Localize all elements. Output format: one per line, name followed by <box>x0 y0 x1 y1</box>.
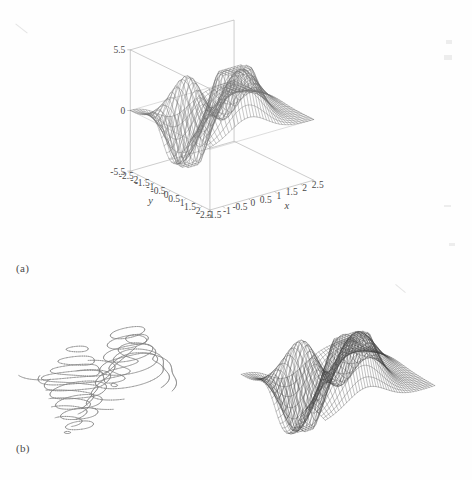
margin-speck <box>444 205 451 207</box>
x-tick-label-6: 1.5 <box>286 187 298 197</box>
panel-label-a: (a) <box>16 262 29 274</box>
figure-b-mesh <box>228 325 448 440</box>
x-tick-label-0: -1.5 <box>206 210 221 220</box>
panel-label-b: (b) <box>16 442 30 454</box>
y-axis-label: y <box>147 195 153 206</box>
x-tick-label-5: 1 <box>276 191 281 201</box>
z-tick-label-0: 5.5 <box>113 45 125 55</box>
x-tick-label-2: -0.5 <box>232 202 247 212</box>
x-tick-label-7: 2 <box>302 183 307 193</box>
margin-speck <box>444 55 452 60</box>
x-tick-label-3: 0 <box>250 198 255 208</box>
dense-mesh-plot-svg <box>228 325 448 440</box>
x-tick-label-1: -1 <box>223 206 231 216</box>
scanned-page: 5.50-5.5-2.5-2-1.5-1-0.500.511.522.5-1.5… <box>0 0 472 480</box>
z-tick-label-1: 0 <box>121 106 126 116</box>
x-tick-label-8: 2.5 <box>312 180 324 190</box>
x-axis-label: x <box>284 200 290 211</box>
figure-b-contour <box>12 325 217 440</box>
margin-speck <box>446 40 452 44</box>
margin-speck <box>449 243 455 246</box>
figure-a-surface: 5.50-5.5-2.5-2-1.5-1-0.500.511.522.5-1.5… <box>0 0 472 310</box>
y-tick-label-6: 0.5 <box>168 194 180 204</box>
surface-plot-svg: 5.50-5.5-2.5-2-1.5-1-0.500.511.522.5-1.5… <box>0 0 472 310</box>
contour-plot-svg <box>12 325 217 440</box>
y-tick-label-8: 1.5 <box>184 202 196 212</box>
x-tick-label-4: 0.5 <box>260 195 272 205</box>
